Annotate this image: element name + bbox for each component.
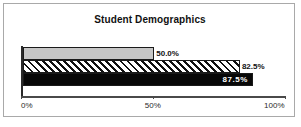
bar-series-1[interactable]: 50.0%: [23, 47, 155, 60]
x-tick-mark: [21, 96, 22, 99]
chart-title: Student Demographics: [4, 14, 296, 25]
x-tick-mark: [153, 96, 154, 99]
chart-frame: Student Demographics 50.0% 82.5% 87.5% 0…: [3, 3, 295, 117]
bar-series-3[interactable]: 87.5%: [23, 73, 254, 86]
x-tick-label-50: 50%: [145, 101, 161, 110]
x-tick-label-100: 100%: [264, 101, 284, 110]
bar-value-label: 50.0%: [156, 49, 179, 58]
bar-value-label: 87.5%: [222, 75, 248, 84]
x-tick-label-0: 0%: [21, 101, 33, 110]
x-tick-mark: [285, 96, 286, 99]
bar-series-2[interactable]: 82.5%: [23, 60, 240, 73]
bar-value-label: 82.5%: [242, 62, 265, 71]
plot-area: 50.0% 82.5% 87.5% 0% 50% 100%: [21, 44, 286, 96]
